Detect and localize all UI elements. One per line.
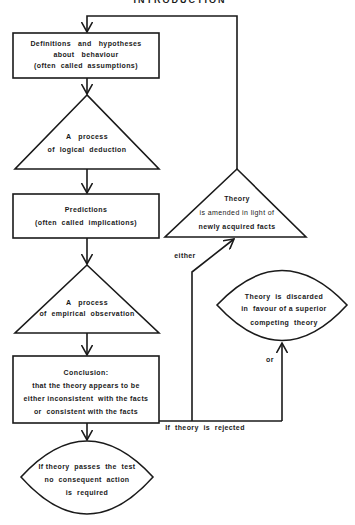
methodology-flowchart: INTRODUCTION Definitions and hypotheses … — [0, 0, 355, 525]
assumptions-line-3: (often called assumptions) — [34, 62, 138, 70]
discarded-line-3: competing theory — [250, 319, 317, 327]
observation-line-2: of empirical observation — [39, 310, 134, 318]
deduction-line-1: A process — [66, 133, 108, 141]
either-label: either — [174, 252, 195, 259]
node-deduction: A process of logical deduction — [15, 95, 159, 169]
predictions-line-1: Predictions — [65, 206, 108, 213]
cut-title: INTRODUCTION — [134, 0, 227, 5]
deduction-line-2: of logical deduction — [48, 146, 127, 154]
either-arrow — [192, 239, 234, 421]
conclusion-line-3: either inconsistent with the facts — [24, 395, 149, 402]
predictions-box — [13, 194, 159, 238]
node-predictions: Predictions (often called implications) — [13, 194, 159, 238]
discarded-line-2: in favour of a superior — [241, 305, 326, 313]
amended-line-3: newly acquired facts — [199, 223, 276, 231]
amended-line-2: is amended in light of — [200, 209, 275, 217]
or-label: or — [266, 356, 274, 363]
node-discarded: Theory is discarded in favour of a super… — [217, 271, 347, 341]
discarded-line-1: Theory is discarded — [245, 293, 323, 301]
conclusion-line-1: Conclusion: — [64, 369, 109, 376]
observation-line-1: A process — [66, 299, 108, 307]
conclusion-line-2: that the theory appears to be — [32, 382, 140, 390]
passes-line-3: is required — [66, 489, 109, 497]
conclusion-line-4: or consistent with the facts — [34, 408, 138, 415]
node-passes: If theory passes the test no consequent … — [21, 441, 153, 514]
passes-line-2: no consequent action — [44, 476, 129, 484]
passes-line-1: If theory passes the test — [38, 463, 135, 471]
node-assumptions: Definitions and hypotheses about behavio… — [13, 33, 159, 78]
rejected-label: If theory is rejected — [165, 424, 245, 432]
deduction-triangle — [15, 95, 159, 169]
assumptions-line-1: Definitions and hypotheses — [30, 40, 141, 48]
node-observation: A process of empirical observation — [15, 265, 159, 333]
node-conclusion: Conclusion: that the theory appears to b… — [13, 356, 159, 423]
node-amended: Theory is amended in light of newly acqu… — [165, 169, 306, 237]
assumptions-line-2: about behaviour — [53, 51, 118, 58]
predictions-line-2: (often called implications) — [35, 219, 137, 227]
amended-line-1: Theory — [224, 195, 250, 203]
